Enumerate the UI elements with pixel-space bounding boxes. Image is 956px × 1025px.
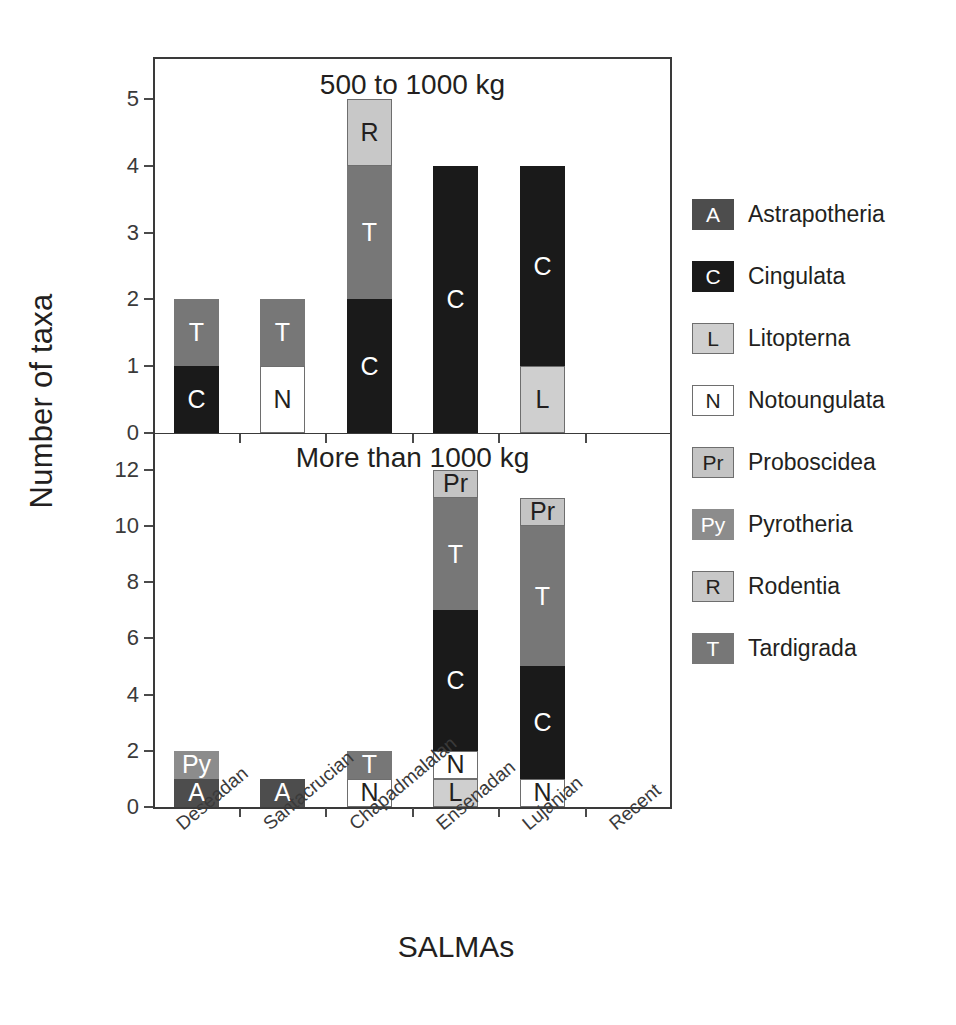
legend-swatch-icon: A [692,199,734,230]
y-axis-title: Number of taxa [22,241,62,561]
legend-swatch-icon: Py [692,509,734,540]
legend-label: Notoungulata [748,387,885,414]
bar-segment[interactable]: L [520,366,565,433]
plot-panel-top: 500 to 1000 kg [153,57,672,435]
x-axis-tick [498,434,500,443]
legend-swatch-icon: L [692,323,734,354]
figure-canvas: Number of taxa SALMAs 500 to 1000 kg Mor… [0,0,956,1025]
y-axis-tick-label: 5 [79,86,139,112]
bar-segment[interactable]: C [433,166,478,433]
legend-item-astrapotheria[interactable]: AAstrapotheria [692,183,942,245]
y-axis-tick-label: 10 [79,513,139,539]
x-axis-tick [585,808,587,817]
y-axis-tick [144,432,153,434]
bar-segment[interactable]: T [347,166,392,300]
bar-segment[interactable]: Pr [520,498,565,526]
legend-item-rodentia[interactable]: RRodentia [692,555,942,617]
bar-stack[interactable]: CT [174,299,219,433]
plot-panel-bottom: More than 1000 kg [153,434,672,809]
y-axis-tick-label: 4 [79,153,139,179]
x-axis-tick [325,434,327,443]
bar-stack[interactable]: NCTPr [520,498,565,807]
bar-stack[interactable]: NT [260,299,305,433]
legend-label: Litopterna [748,325,850,352]
x-axis-title: SALMAs [316,930,596,964]
legend-item-proboscidea[interactable]: PrProboscidea [692,431,942,493]
legend-swatch-icon: T [692,633,734,664]
panel-title-top: 500 to 1000 kg [155,69,670,101]
legend-item-notoungulata[interactable]: NNotoungulata [692,369,942,431]
bar-segment[interactable]: T [520,526,565,667]
y-axis-tick-label: 3 [79,220,139,246]
x-axis-tick [412,434,414,443]
y-axis-tick [144,365,153,367]
legend-item-pyrotheria[interactable]: PyPyrotheria [692,493,942,555]
legend-label: Proboscidea [748,449,876,476]
bar-segment[interactable]: C [520,666,565,778]
bar-segment[interactable]: R [347,99,392,166]
y-axis-tick-label: 1 [79,353,139,379]
y-axis-tick [144,165,153,167]
x-axis-tick [325,808,327,817]
y-axis-tick [144,637,153,639]
y-axis-tick-label: 8 [79,569,139,595]
y-axis-tick-label: 4 [79,682,139,708]
x-axis-tick [412,808,414,817]
y-axis-tick-label: 6 [79,625,139,651]
bar-segment[interactable]: T [260,299,305,366]
y-axis-tick-label: 2 [79,286,139,312]
bar-segment[interactable]: C [174,366,219,433]
legend-swatch-icon: R [692,571,734,602]
y-axis-tick [144,581,153,583]
bar-stack[interactable]: LC [520,166,565,433]
y-axis-tick-label: 0 [79,794,139,820]
legend-swatch-icon: C [692,261,734,292]
y-axis-tick [144,525,153,527]
y-axis-tick [144,298,153,300]
legend-item-tardigrada[interactable]: TTardigrada [692,617,942,679]
legend-label: Rodentia [748,573,840,600]
legend-item-cingulata[interactable]: CCingulata [692,245,942,307]
bar-stack[interactable]: C [433,166,478,433]
legend-label: Pyrotheria [748,511,853,538]
y-axis-tick [144,806,153,808]
bar-segment[interactable]: T [433,498,478,610]
bar-segment[interactable]: C [347,299,392,433]
x-axis-tick [239,808,241,817]
y-axis-tick [144,694,153,696]
y-axis-tick [144,750,153,752]
legend-label: Cingulata [748,263,845,290]
legend-label: Astrapotheria [748,201,885,228]
bar-segment[interactable]: C [520,166,565,366]
y-axis-tick [144,98,153,100]
bar-segment[interactable]: Pr [433,470,478,498]
bar-segment[interactable]: Py [174,751,219,779]
x-axis-tick [498,808,500,817]
y-axis-tick-label: 2 [79,738,139,764]
y-axis-tick [144,232,153,234]
y-axis-tick-label: 0 [79,420,139,446]
legend-item-litopterna[interactable]: LLitopterna [692,307,942,369]
bar-stack[interactable]: CTR [347,99,392,433]
panel-title-bottom: More than 1000 kg [155,442,670,474]
legend: AAstrapotheriaCCingulataLLitopternaNNoto… [692,183,942,679]
bar-segment[interactable]: C [433,610,478,751]
legend-swatch-icon: Pr [692,447,734,478]
y-axis-tick-label: 12 [79,457,139,483]
legend-swatch-icon: N [692,385,734,416]
x-axis-tick [239,434,241,443]
y-axis-tick [144,469,153,471]
bar-segment[interactable]: T [174,299,219,366]
x-axis-tick [585,434,587,443]
bar-segment[interactable]: N [260,366,305,433]
legend-label: Tardigrada [748,635,857,662]
